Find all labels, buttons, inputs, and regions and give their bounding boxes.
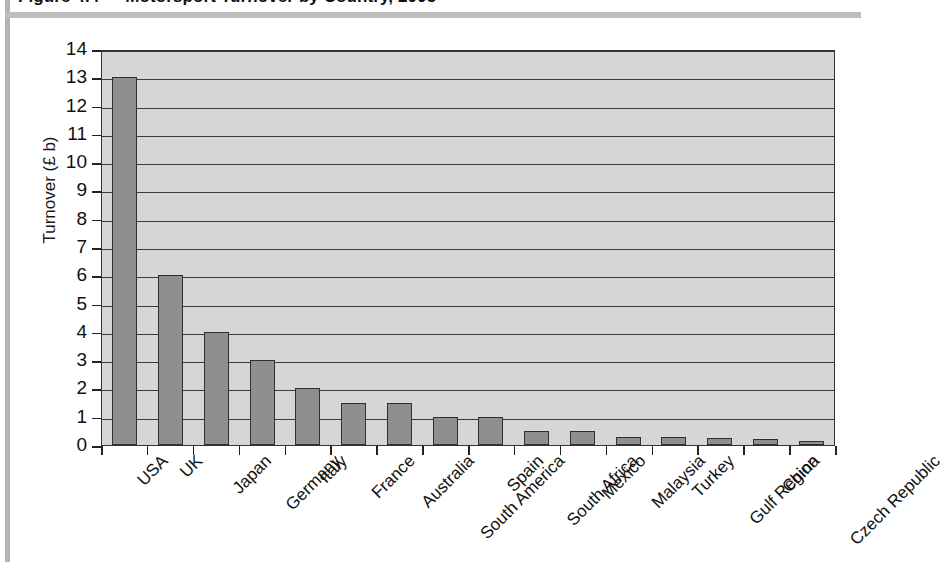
bar-slot <box>788 51 834 445</box>
x-axis-label: UK <box>177 452 206 481</box>
bar[interactable] <box>616 437 641 445</box>
bar[interactable] <box>250 360 275 445</box>
bar[interactable] <box>204 332 229 445</box>
y-tick-mark <box>92 333 101 335</box>
x-axis-labels: USAUKJapanGermanyItalyFranceAustraliaSou… <box>101 452 835 562</box>
figure-title-number: Figure 4.4 <box>18 0 99 6</box>
bar-slot <box>102 51 148 445</box>
y-tick-mark <box>92 163 101 165</box>
y-tick-label: 4 <box>76 321 87 343</box>
y-tick-label: 14 <box>66 38 87 60</box>
y-tick-mark <box>92 418 101 420</box>
bar[interactable] <box>707 438 732 445</box>
y-tick-label: 5 <box>76 293 87 315</box>
bar[interactable] <box>387 403 412 445</box>
bar[interactable] <box>158 275 183 445</box>
y-tick-mark <box>92 389 101 391</box>
bar-slot <box>148 51 194 445</box>
bar[interactable] <box>661 437 686 445</box>
x-axis-label: Australia <box>419 452 478 511</box>
y-tick-mark <box>92 361 101 363</box>
plot-area <box>101 50 835 446</box>
bar[interactable] <box>433 417 458 445</box>
y-tick-mark <box>92 191 101 193</box>
bar-slot <box>239 51 285 445</box>
bar-slot <box>377 51 423 445</box>
x-tick-mark <box>835 446 837 455</box>
bar[interactable] <box>753 439 778 445</box>
y-tick-mark <box>92 248 101 250</box>
figure-top-rule <box>5 12 861 18</box>
bar[interactable] <box>341 403 366 445</box>
y-tick-label: 9 <box>76 179 87 201</box>
y-tick-label: 0 <box>76 434 87 456</box>
bar[interactable] <box>478 417 503 445</box>
y-tick-mark <box>92 50 101 52</box>
figure-title-text: Motorsport Turnover by Country, 2005 <box>125 0 436 6</box>
y-tick-label: 7 <box>76 236 87 258</box>
y-tick-label: 1 <box>76 406 87 428</box>
x-axis-label: France <box>369 452 419 502</box>
y-tick-label: 6 <box>76 264 87 286</box>
y-tick-mark <box>92 135 101 137</box>
bar-slot <box>560 51 606 445</box>
y-tick-mark <box>92 107 101 109</box>
y-tick-label: 13 <box>66 66 87 88</box>
bar[interactable] <box>570 431 595 445</box>
y-tick-label: 12 <box>66 95 87 117</box>
x-axis-label: China <box>779 452 823 496</box>
y-tick-mark <box>92 78 101 80</box>
bar-slot <box>468 51 514 445</box>
y-axis-ticks: 01234567891011121314 <box>0 50 101 446</box>
bar[interactable] <box>295 388 320 445</box>
bar-slot <box>697 51 743 445</box>
y-tick-label: 3 <box>76 349 87 371</box>
bar[interactable] <box>524 431 549 445</box>
bar-series <box>102 51 834 445</box>
y-tick-mark <box>92 305 101 307</box>
x-axis-label: USA <box>134 452 171 489</box>
y-tick-label: 8 <box>76 208 87 230</box>
y-tick-mark <box>92 446 101 448</box>
x-axis-label: Japan <box>229 452 274 497</box>
x-axis-label: Czech Republic <box>847 452 944 549</box>
bar[interactable] <box>799 441 824 445</box>
bar-slot <box>422 51 468 445</box>
y-tick-label: 10 <box>66 151 87 173</box>
bar-slot <box>194 51 240 445</box>
bar-slot <box>331 51 377 445</box>
bar-slot <box>651 51 697 445</box>
bar[interactable] <box>112 77 137 445</box>
bar-slot <box>285 51 331 445</box>
y-tick-label: 2 <box>76 377 87 399</box>
bar-slot <box>605 51 651 445</box>
bar-slot <box>514 51 560 445</box>
y-tick-mark <box>92 220 101 222</box>
figure-title: Figure 4.4Motorsport Turnover by Country… <box>18 0 818 11</box>
y-tick-mark <box>92 276 101 278</box>
bar-slot <box>743 51 789 445</box>
y-tick-label: 11 <box>67 123 87 145</box>
